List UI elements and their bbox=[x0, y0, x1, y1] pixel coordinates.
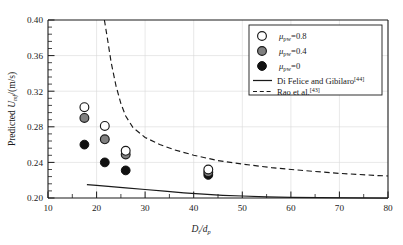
y-tick-label: 0.24 bbox=[27, 158, 43, 168]
x-axis-title-dt: D bbox=[190, 224, 198, 234]
y-axis-title-prefix: Predicted bbox=[7, 108, 17, 146]
data-point bbox=[80, 140, 89, 149]
x-tick-label: 70 bbox=[335, 203, 345, 213]
legend-mu-value: =0.4 bbox=[291, 46, 307, 56]
legend-mu-value: =0 bbox=[291, 61, 300, 71]
legend-label-di-felice: Di Felice and Gibilaro[44] bbox=[277, 76, 364, 86]
legend-label-mu-0p8: μpw=0.8 bbox=[278, 31, 307, 42]
legend-marker-gray-circle bbox=[258, 47, 267, 56]
y-tick-label: 0.28 bbox=[27, 122, 43, 132]
y-tick-label: 0.20 bbox=[27, 193, 43, 203]
y-tick-label: 0.40 bbox=[27, 15, 43, 25]
legend-marker-open-circle bbox=[258, 32, 267, 41]
legend-mu-value: =0.8 bbox=[291, 31, 307, 41]
x-tick-label: 50 bbox=[238, 203, 248, 213]
x-axis-title-dp: /d bbox=[199, 224, 208, 234]
data-point bbox=[204, 165, 213, 174]
data-point bbox=[100, 158, 109, 167]
y-tick-label: 0.32 bbox=[27, 87, 43, 97]
legend-di-felice-text: Di Felice and Gibilaro bbox=[277, 76, 354, 86]
chart-figure: 0.20 0.24 0.28 0.32 0.36 0.40 10 20 30 4… bbox=[0, 0, 403, 245]
data-point bbox=[121, 166, 130, 175]
y-axis-title-suffix: /(m/s) bbox=[7, 72, 18, 95]
x-tick-label: 10 bbox=[43, 203, 53, 213]
y-axis-title: Predicted Umf/(m/s) bbox=[7, 72, 18, 146]
legend-rao-text: Rao et al. bbox=[277, 87, 310, 97]
x-tick-label: 20 bbox=[92, 203, 102, 213]
x-axis-title: Dt/dp bbox=[190, 224, 210, 235]
x-tick-label: 40 bbox=[189, 203, 199, 213]
legend-di-felice-citation: [44] bbox=[354, 76, 364, 82]
data-point bbox=[80, 114, 89, 123]
x-tick-label: 60 bbox=[286, 203, 296, 213]
data-point bbox=[121, 146, 130, 155]
x-tick-labels: 10 20 30 40 50 60 70 80 bbox=[43, 203, 393, 213]
data-point bbox=[100, 135, 109, 144]
y-tick-label: 0.36 bbox=[27, 51, 43, 61]
legend-rao-citation: [43] bbox=[310, 87, 320, 93]
x-tick-label: 80 bbox=[383, 203, 393, 213]
x-tick-label: 30 bbox=[141, 203, 151, 213]
data-point bbox=[80, 103, 89, 112]
y-tick-labels: 0.20 0.24 0.28 0.32 0.36 0.40 bbox=[27, 15, 43, 203]
legend-marker-filled-circle bbox=[258, 62, 267, 71]
data-point bbox=[100, 122, 109, 131]
legend-label-mu-0p4: μpw=0.4 bbox=[278, 46, 307, 57]
legend: μpw=0.8 μpw=0.4 μpw=0 Di Felice and Gibi… bbox=[249, 25, 382, 97]
x-axis-title-sub-p: p bbox=[206, 228, 210, 235]
